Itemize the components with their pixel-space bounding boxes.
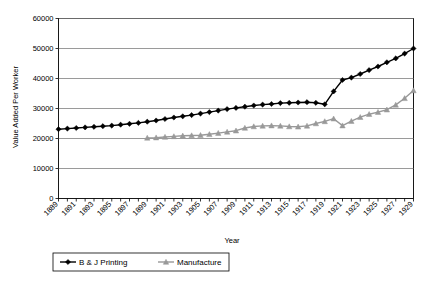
y-tick-label: 10000	[33, 164, 54, 173]
legend-label-1: B & J Printing	[79, 258, 127, 267]
legend-label-2: Manufacture	[177, 258, 222, 267]
y-axis-title: Value Added Per Worker	[11, 66, 20, 148]
line-chart: 6000050000400003000020000100000 18891891…	[0, 0, 428, 284]
x-axis-ticks	[59, 199, 414, 202]
chart-container: 6000050000400003000020000100000 18891891…	[0, 0, 428, 284]
y-tick-label: 60000	[33, 14, 54, 23]
y-tick-label: 50000	[33, 44, 54, 53]
y-tick-label: 40000	[33, 74, 54, 83]
y-tick-label: 20000	[33, 134, 54, 143]
x-axis-title: Year	[224, 236, 240, 245]
chart-background	[0, 0, 428, 284]
y-tick-label: 30000	[33, 104, 54, 113]
legend: B & J PrintingManufacture	[53, 253, 229, 271]
